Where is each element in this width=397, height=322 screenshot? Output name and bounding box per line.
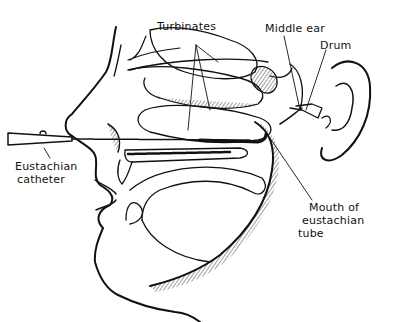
label-turbinates: Turbinates (157, 21, 216, 33)
label-drum: Drum (320, 40, 351, 52)
turbinates (130, 28, 271, 143)
upper-lip (95, 180, 116, 194)
hard-palate (118, 148, 248, 184)
label-middle-ear: Middle ear (265, 23, 325, 35)
outer-ear (321, 62, 370, 161)
tongue (126, 167, 265, 262)
label-eustachian-catheter-line1: Eustachian (15, 161, 78, 173)
label-mouth-of-eustachian-tube-line2: eustachian (302, 215, 364, 227)
label-mouth-of-eustachian-tube-line3: tube (298, 228, 324, 240)
lower-lip (96, 200, 116, 210)
label-eustachian-catheter-line2: catheter (17, 174, 65, 186)
label-mouth-of-eustachian-tube-line1: Mouth of (309, 202, 359, 214)
